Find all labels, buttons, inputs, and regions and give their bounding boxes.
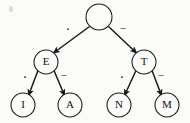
edge-label-e-a: – [61,69,68,80]
edge-label-t-n: · [120,72,123,83]
node-t[interactable]: T [132,50,156,74]
node-e[interactable]: E [34,50,58,74]
node-root[interactable] [86,4,112,30]
edge-label-root-e: · [66,24,69,35]
edge-label-root-t: – [120,22,127,33]
morse-code-tree-diagram: · – · – · – E T I [0,0,190,123]
node-t-label: T [141,55,148,67]
edge-label-e-i: · [23,72,26,83]
edge-e-to-i [29,71,39,96]
edge-label-t-m: – [158,69,165,80]
node-m[interactable]: M [155,93,179,117]
edge-root-to-e [54,27,90,54]
node-m-label: M [162,98,172,110]
scan-speck [9,6,13,12]
node-i[interactable]: I [11,93,35,117]
tree-canvas: · – · – · – E T I [0,0,190,123]
node-e-label: E [43,55,50,67]
node-root-circle[interactable] [86,4,112,30]
edge-t-to-n [125,71,137,96]
node-a[interactable]: A [58,93,82,117]
node-n[interactable]: N [107,93,131,117]
nodes-group: E T I A N M [11,4,179,117]
node-n-label: N [115,98,123,110]
node-i-label: I [21,98,25,110]
node-a-label: A [66,98,74,110]
